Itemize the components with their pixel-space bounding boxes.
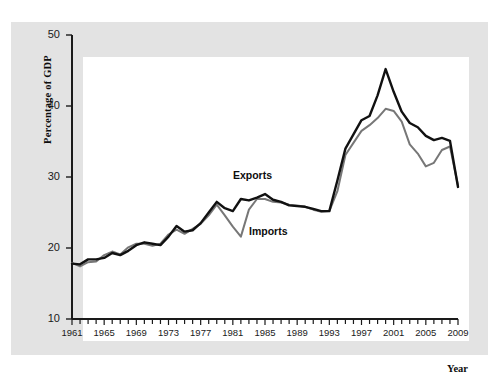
chart-svg [11,22,488,355]
y-tick-label: 50 [34,28,60,40]
y-tick-label: 20 [34,241,60,253]
x-axis-title: Year [447,363,468,373]
chart-panel: Percentage of GDP 1020304050 19611965196… [11,22,488,355]
x-tick-label: 2009 [438,327,478,338]
y-tick-label: 40 [34,99,60,111]
figure: Percentage of GDP 1020304050 19611965196… [0,0,499,373]
series-label-exports: Exports [233,169,272,181]
y-tick-label: 10 [34,312,60,324]
y-tick-label: 30 [34,170,60,182]
series-line-imports [72,109,458,267]
series-label-imports: Imports [249,225,288,237]
